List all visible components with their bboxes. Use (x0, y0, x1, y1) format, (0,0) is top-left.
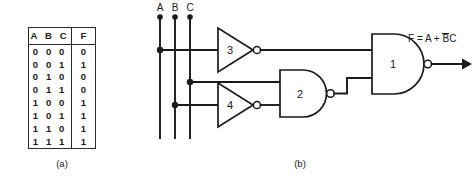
caption-b: (b) (270, 158, 330, 169)
junction-dot-a (157, 47, 163, 53)
cell-output: 1 (71, 58, 95, 71)
inverter3-bubble (253, 46, 260, 53)
column-header-inputs: A B C (29, 28, 72, 45)
table-row: 1 0 0 1 (29, 96, 96, 109)
cell-inputs: 0 1 1 (29, 84, 72, 97)
junction-dot-b (172, 102, 178, 108)
input-label-c: C (186, 2, 193, 13)
equation-suffix: C (449, 33, 456, 44)
terminal-dot-a (157, 14, 163, 20)
junction-dot-c (187, 79, 193, 85)
cell-output: 0 (71, 84, 95, 97)
input-label-b: B (172, 2, 179, 13)
nand2-label: 2 (297, 88, 303, 100)
cell-inputs: 1 0 1 (29, 109, 72, 122)
inverter3-label: 3 (227, 44, 233, 56)
figure-root: A B C F 0 0 0 0 0 0 1 1 0 1 0 0 0 (0, 0, 472, 176)
cell-inputs: 0 1 0 (29, 71, 72, 84)
cell-inputs: 1 1 1 (29, 135, 72, 148)
truth-table: A B C F 0 0 0 0 0 0 1 1 0 1 0 0 0 (28, 27, 96, 149)
caption-a: (a) (28, 158, 96, 169)
logic-circuit-diagram: A B C 3 (140, 0, 472, 156)
cell-output: 1 (71, 135, 95, 148)
column-header-output: F (71, 28, 95, 45)
nand1-label: 1 (390, 58, 396, 70)
wire-nand2-to-nand1 (334, 78, 372, 94)
cell-output: 1 (71, 96, 95, 109)
output-equation: F = A + BC (408, 33, 456, 45)
table-row: 0 0 1 1 (29, 58, 96, 71)
cell-output: 0 (71, 45, 95, 58)
table-row: 0 0 0 0 (29, 45, 96, 58)
cell-output: 1 (71, 122, 95, 135)
cell-output: 1 (71, 109, 95, 122)
table-row: 1 1 0 1 (29, 122, 96, 135)
cell-inputs: 0 0 0 (29, 45, 72, 58)
table-header-row: A B C F (29, 28, 96, 45)
cell-inputs: 1 1 0 (29, 122, 72, 135)
cell-output: 0 (71, 71, 95, 84)
truth-table-body: 0 0 0 0 0 0 1 1 0 1 0 0 0 1 1 0 1 0 0 (29, 45, 96, 149)
inverter4-label: 4 (227, 99, 233, 111)
nand1-bubble (424, 60, 432, 68)
inverter4-bubble (253, 101, 260, 108)
terminal-dot-c (187, 14, 193, 20)
table-row: 0 1 1 0 (29, 84, 96, 97)
input-label-a: A (157, 2, 164, 13)
table-row: 1 0 1 1 (29, 109, 96, 122)
output-arrowhead (462, 59, 472, 70)
nand2-bubble (327, 90, 335, 98)
inverter4-body (218, 83, 253, 127)
inverter3-body (218, 28, 253, 72)
nand2-body (280, 70, 326, 117)
truth-table-head: A B C F (29, 28, 96, 45)
terminal-dot-b (172, 14, 178, 20)
truth-table-container: A B C F 0 0 0 0 0 0 1 1 0 1 0 0 0 (28, 27, 96, 149)
equation-prefix: F = A + (408, 33, 442, 44)
cell-inputs: 0 0 1 (29, 58, 72, 71)
cell-inputs: 1 0 0 (29, 96, 72, 109)
table-row: 0 1 0 0 (29, 71, 96, 84)
table-row: 1 1 1 1 (29, 135, 96, 148)
